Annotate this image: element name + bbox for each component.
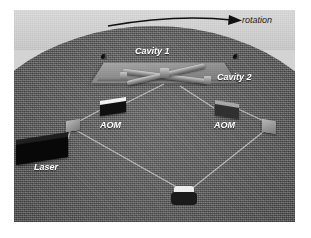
optics-figure: rotation Laser AOM AOM Cavity 1 <box>14 10 295 222</box>
cavity-2-label: Cavity 2 <box>217 72 252 82</box>
beam-paths <box>14 10 295 222</box>
cavity-1-label: Cavity 1 <box>135 46 170 56</box>
aom-right-label: AOM <box>214 120 235 130</box>
laser-label: Laser <box>34 162 58 172</box>
mirror-right <box>262 119 276 134</box>
mirror-bottom-body <box>171 192 197 205</box>
aom-left-label: AOM <box>100 120 121 130</box>
